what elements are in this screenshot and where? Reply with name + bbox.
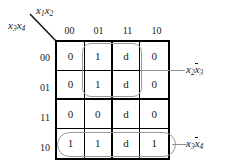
kmap-cell-r1c1: 1: [85, 71, 113, 100]
kmap-cell-r1c3: 0: [140, 71, 168, 100]
column-header-3: 10: [142, 26, 171, 36]
column-header-2: 11: [113, 26, 142, 36]
kmap-cell-r3c0: 1: [57, 129, 85, 158]
row-header-2: 11: [26, 113, 50, 123]
kmap-cell-r0c0: 0: [57, 42, 85, 71]
kmap-grid: 0 1 d 0 0 1 d 0 0 0 d 0 1 1 d 1: [55, 40, 170, 160]
kmap-cell-r0c2: d: [113, 42, 141, 71]
column-header-0: 00: [55, 26, 84, 36]
kmap-cell-r0c3: 0: [140, 42, 168, 71]
karnaugh-map-figure: x1x2 x3x4 00 01 11 10 00 01 11 10 0 1 d …: [0, 0, 225, 167]
kmap-cell-r2c0: 0: [57, 100, 85, 129]
row-header-1: 01: [26, 83, 50, 93]
kmap-cell-r2c3: 0: [140, 100, 168, 129]
kmap-cell-r3c3: 1: [140, 129, 168, 158]
kmap-cell-r3c1: 1: [85, 129, 113, 158]
kmap-cell-r3c2: d: [113, 129, 141, 158]
column-header-1: 01: [84, 26, 113, 36]
row-variable-label: x3x4: [8, 20, 25, 33]
kmap-cell-r2c1: 0: [85, 100, 113, 129]
row-header-0: 00: [26, 53, 50, 63]
row-header-3: 10: [26, 143, 50, 153]
kmap-cell-r2c2: d: [113, 100, 141, 129]
column-variable-label: x1x2: [36, 5, 53, 18]
kmap-cell-r1c0: 0: [57, 71, 85, 100]
group-label-x2-not-x3: x2x3: [186, 64, 203, 77]
kmap-cell-r0c1: 1: [85, 42, 113, 71]
kmap-cell-r1c2: d: [113, 71, 141, 100]
group-label-x3-not-x4: x3x4: [186, 138, 203, 151]
